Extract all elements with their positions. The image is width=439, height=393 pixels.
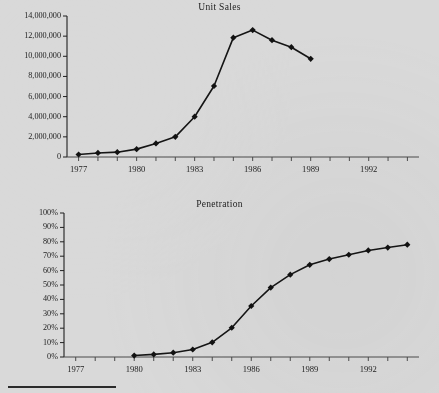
y-tick-label: 90% — [18, 223, 58, 231]
data-point-marker — [114, 149, 120, 155]
y-tick-label: 70% — [18, 252, 58, 260]
y-tick-label: 2,000,000 — [0, 133, 61, 141]
penetration-title: Penetration — [0, 199, 439, 209]
y-tick-label: 40% — [18, 295, 58, 303]
data-point-marker — [269, 37, 275, 43]
x-tick-label: 1980 — [114, 365, 154, 374]
x-tick-label: 1983 — [175, 165, 215, 174]
scanned-page: Unit Sales 02,000,0004,000,0006,000,0008… — [0, 0, 439, 393]
data-point-marker — [95, 150, 101, 156]
data-point-marker — [365, 247, 371, 253]
data-point-marker — [230, 35, 236, 41]
x-tick-label: 1986 — [231, 365, 271, 374]
data-point-marker — [190, 346, 196, 352]
x-tick-label: 1977 — [59, 165, 99, 174]
y-tick-label: 14,000,000 — [0, 12, 61, 20]
data-point-marker — [134, 146, 140, 152]
y-tick-label: 60% — [18, 267, 58, 275]
x-tick-label: 1989 — [290, 365, 330, 374]
y-tick-label: 50% — [18, 281, 58, 289]
unit-sales-canvas — [67, 16, 419, 157]
data-point-marker — [346, 252, 352, 258]
x-tick-label: 1992 — [348, 365, 388, 374]
data-point-marker — [385, 244, 391, 250]
y-tick-label: 12,000,000 — [0, 32, 61, 40]
data-point-marker — [131, 352, 137, 358]
penetration-canvas — [64, 213, 419, 357]
data-point-marker — [326, 256, 332, 262]
x-tick-label: 1989 — [291, 165, 331, 174]
penetration-plot: 0%10%20%30%40%50%60%70%80%90%100%1977198… — [64, 213, 419, 357]
data-point-marker — [250, 27, 256, 33]
series-line — [134, 245, 407, 356]
unit-sales-figure: Unit Sales 02,000,0004,000,0006,000,0008… — [0, 0, 439, 196]
data-point-marker — [153, 140, 159, 146]
footer-rule — [8, 386, 116, 388]
data-point-marker — [404, 242, 410, 248]
data-point-marker — [307, 262, 313, 268]
x-tick-label: 1980 — [117, 165, 157, 174]
y-tick-label: 10% — [18, 339, 58, 347]
x-tick-label: 1986 — [233, 165, 273, 174]
data-point-marker — [170, 350, 176, 356]
y-tick-label: 10,000,000 — [0, 52, 61, 60]
x-tick-label: 1977 — [56, 365, 96, 374]
y-tick-label: 0 — [0, 153, 61, 161]
y-tick-label: 6,000,000 — [0, 93, 61, 101]
unit-sales-plot: 02,000,0004,000,0006,000,0008,000,00010,… — [67, 16, 419, 157]
y-tick-label: 20% — [18, 324, 58, 332]
unit-sales-title: Unit Sales — [0, 2, 439, 12]
y-tick-label: 0% — [18, 353, 58, 361]
y-tick-label: 30% — [18, 310, 58, 318]
series-line — [79, 30, 311, 154]
x-tick-label: 1983 — [173, 365, 213, 374]
y-tick-label: 4,000,000 — [0, 113, 61, 121]
y-tick-label: 100% — [18, 209, 58, 217]
penetration-figure: Penetration 0%10%20%30%40%50%60%70%80%90… — [0, 196, 439, 376]
y-tick-label: 8,000,000 — [0, 72, 61, 80]
x-tick-label: 1992 — [349, 165, 389, 174]
y-tick-label: 80% — [18, 238, 58, 246]
